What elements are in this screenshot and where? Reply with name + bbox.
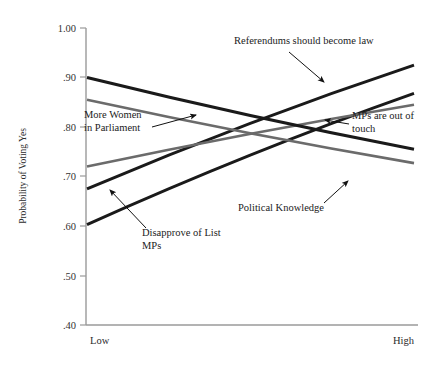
y-tick-label-0-70: .70 (63, 171, 76, 182)
annotation-disapprove-of-list-mps: Disapprove of ListMPs (110, 190, 221, 251)
annotation-arrow-referendums-should-become-law (289, 52, 324, 82)
series-layer (87, 65, 414, 224)
y-tick-label-0-90: .90 (63, 72, 76, 83)
annotation-mps-are-out-of-touch: MPs are out oftouch (325, 110, 415, 134)
line-chart: 1.00 .90 .80 .70 .60 .50 .40 Probability… (0, 0, 436, 373)
y-tick-label-1-00: 1.00 (58, 23, 76, 34)
x-tick-label-high: High (393, 335, 415, 346)
annotation-political-knowledge: Political Knowledge (238, 181, 348, 213)
annotation-arrow-political-knowledge (324, 181, 348, 203)
chart-container: 1.00 .90 .80 .70 .60 .50 .40 Probability… (0, 0, 436, 373)
annotation-label-disapprove-of-list-mps: Disapprove of ListMPs (142, 227, 221, 251)
annotation-referendums-should-become-law: Referendums should become law (234, 35, 374, 82)
y-tick-marks (80, 28, 86, 325)
y-tick-label-0-80: .80 (63, 122, 76, 133)
annotation-label-referendums-should-become-law: Referendums should become law (234, 35, 374, 46)
y-tick-label-0-40: .40 (63, 320, 76, 331)
x-tick-label-low: Low (90, 335, 110, 346)
y-tick-label-0-50: .50 (63, 271, 76, 282)
y-axis-title: Probability of Voting Yes (18, 128, 28, 224)
annotation-label-more-women-in-parliament: More Womenin Parliament (84, 109, 142, 133)
annotation-label-mps-are-out-of-touch: MPs are out oftouch (352, 110, 415, 134)
annotation-label-political-knowledge: Political Knowledge (238, 202, 324, 213)
annotation-more-women-in-parliament: More Womenin Parliament (84, 109, 196, 133)
annotation-layer: More Womenin ParliamentReferendums shoul… (84, 35, 415, 251)
annotation-arrow-disapprove-of-list-mps (110, 190, 146, 228)
y-tick-label-0-60: .60 (63, 221, 76, 232)
